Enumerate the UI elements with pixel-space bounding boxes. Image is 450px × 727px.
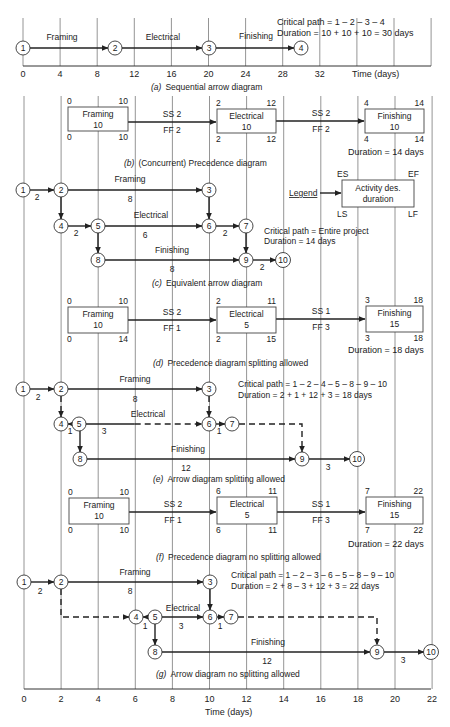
tick-label: 2 [59, 694, 64, 704]
activity-duration: 10 [242, 122, 252, 132]
early-start: 3 [365, 295, 370, 305]
activity-duration: 5 [244, 320, 249, 330]
late-finish: 22 [414, 525, 424, 535]
early-finish: 12 [267, 98, 277, 108]
activity-label: Framing [119, 567, 150, 577]
event-node-label: 10 [352, 454, 362, 464]
event-node-label: 2 [113, 43, 118, 53]
event-node-label: 10 [278, 255, 288, 265]
link-ss: SS 2 [164, 499, 183, 509]
dummy-dependency-arrow [61, 589, 129, 617]
c-critical-path: Critical path = Entire project [264, 226, 369, 236]
late-start: 4 [364, 134, 369, 144]
tick-label: 14 [279, 694, 289, 704]
activity-duration: 10 [390, 122, 400, 132]
tick-label: 6 [133, 694, 138, 704]
event-node-label: 1 [21, 185, 26, 195]
activity-duration: 2 [36, 392, 41, 402]
activity-name: Finishing [377, 499, 411, 509]
activity-label: Framing [119, 374, 150, 384]
activity-label: Finishing [251, 637, 285, 647]
link-ff: FF 3 [312, 515, 330, 525]
event-node-label: 2 [59, 185, 64, 195]
early-finish: 10 [119, 96, 129, 106]
event-node-label: 6 [207, 419, 212, 429]
link-ss: SS 2 [163, 307, 182, 317]
activity-duration: 2 [38, 586, 43, 596]
activity-name: Electrical [230, 499, 265, 509]
link-ss: SS 1 [312, 306, 331, 316]
event-node-label: 2 [59, 384, 64, 394]
activity-duration: 2 [223, 228, 228, 238]
event-node-label: 1 [21, 43, 26, 53]
caption-e: (e)Arrow diagram splitting allowed [153, 474, 285, 484]
tick-label: 22 [427, 694, 437, 704]
caption-b: (b)(Concurrent) Precedence diagram [124, 158, 267, 168]
late-finish: 15 [267, 334, 277, 344]
activity-duration: 6 [143, 230, 148, 240]
late-start: 0 [68, 525, 73, 535]
event-node-label: 3 [208, 577, 213, 587]
activity-duration: 15 [390, 510, 400, 520]
g-duration: Duration = 2 + 8 – 3 + 12 + 3 = 22 days [231, 581, 379, 591]
tick-label: 24 [241, 69, 251, 79]
event-node-label: 5 [77, 419, 82, 429]
activity-duration: 8 [128, 586, 133, 596]
a-duration: Duration = 10 + 10 + 10 = 30 days [277, 28, 414, 38]
activity-duration: 15 [390, 319, 400, 329]
activity-duration: 3 [102, 426, 107, 436]
early-start: 4 [364, 98, 369, 108]
link-ff: FF 2 [312, 124, 330, 134]
tick-label: 12 [242, 694, 252, 704]
event-node-label: 9 [375, 647, 380, 657]
late-finish: 10 [119, 132, 129, 142]
event-node-label: 2 [59, 577, 64, 587]
activity-duration: 8 [133, 394, 138, 404]
dummy-dependency-arrow [239, 424, 302, 452]
late-start: 2 [216, 134, 221, 144]
activity-duration: 2 [260, 262, 265, 272]
caption-a: (a)Sequential arrow diagram [151, 82, 262, 92]
early-start: 7 [365, 486, 370, 496]
caption-c: (c)Equivalent arrow diagram [152, 278, 262, 288]
tick-label: 8 [170, 694, 175, 704]
early-finish: 10 [119, 296, 129, 306]
legend-box-line2: duration [363, 194, 394, 204]
early-finish: 11 [268, 486, 277, 496]
activity-label: Finishing [155, 245, 189, 255]
late-start: 7 [365, 525, 370, 535]
link-ff: FF 3 [312, 322, 330, 332]
legend-label: Legend [289, 188, 318, 198]
activity-label: Framing [46, 32, 77, 42]
event-node-label: 4 [59, 419, 64, 429]
e-critical-path: Critical path = 1 – 2 – 4 – 5 – 8 – 9 – … [238, 379, 387, 389]
link-ff: FF 1 [164, 515, 182, 525]
legend-ls: LS [337, 209, 348, 219]
event-node-label: 1 [22, 577, 27, 587]
event-node-label: 3 [207, 384, 212, 394]
event-node-label: 7 [244, 221, 249, 231]
link-ff: FF 2 [163, 125, 181, 135]
late-start: 0 [67, 132, 72, 142]
activity-duration: 3 [326, 462, 331, 472]
activity-duration: 1 [143, 621, 148, 631]
event-node-label: 6 [208, 612, 213, 622]
activity-duration: 10 [93, 320, 103, 330]
event-node-label: 4 [299, 43, 304, 53]
legend-ef: EF [408, 169, 419, 179]
activity-name: Framing [83, 500, 114, 510]
caption-g: (g)Arrow diagram no splitting allowed [156, 669, 300, 679]
activity-name: Framing [82, 109, 113, 119]
legend: Legend Activity des. duration ES EF LS L… [289, 169, 419, 219]
tick-label: 0 [21, 694, 26, 704]
time-axis-bottom: 0246810121416182022 [21, 694, 437, 704]
early-start: 0 [67, 96, 72, 106]
legend-es: ES [337, 169, 349, 179]
activity-duration: 1 [68, 426, 73, 436]
activity-label: Electrical [166, 603, 201, 613]
tick-label: 4 [58, 69, 63, 79]
late-finish: 14 [415, 134, 425, 144]
f-duration: Duration = 22 days [348, 539, 424, 549]
late-finish: 14 [119, 334, 129, 344]
tick-label: 16 [166, 69, 176, 79]
